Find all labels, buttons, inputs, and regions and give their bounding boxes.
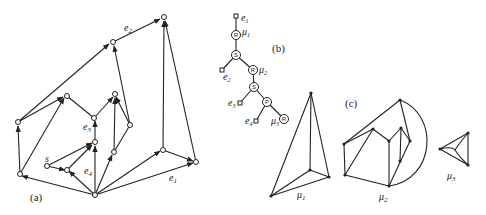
node-label-mu2: μ2	[258, 64, 267, 76]
label-mu1: μ1	[296, 189, 306, 202]
leaf-label-e1: e1	[241, 12, 248, 24]
leaf-e4	[254, 119, 258, 123]
svg-text:S: S	[252, 84, 256, 90]
caption-a: (a)	[30, 191, 43, 204]
svg-text:R: R	[282, 116, 287, 122]
label-mu3: μ3	[446, 170, 456, 183]
caption-b: (b)	[272, 42, 285, 55]
node-label-mu3: μ3	[270, 115, 279, 127]
diagram-canvas: e2 e3 e4 e1 s (a) R S R S P R e1 μ1 e2	[0, 0, 486, 215]
edge-label-e2: e2	[124, 22, 132, 35]
tree-node-s2: S	[250, 83, 259, 92]
tree-node-r2: R	[249, 66, 258, 75]
tree-node-s1: S	[232, 51, 241, 60]
svg-text:S: S	[234, 52, 238, 58]
source-label-s: s	[45, 153, 49, 164]
tree-b: R S R S P R e1 μ1 e2 μ2 e3 e4 μ3 (b)	[220, 12, 289, 127]
graph-a: e2 e3 e4 e1 s (a)	[16, 15, 199, 205]
leaf-label-e3: e3	[228, 97, 235, 109]
svg-text:R: R	[251, 67, 256, 73]
label-mu2: μ2	[378, 191, 388, 204]
tree-node-p: P	[263, 98, 272, 107]
leaf-e1	[234, 14, 238, 18]
edge-label-e4: e4	[84, 165, 92, 178]
svg-text:R: R	[234, 32, 239, 38]
edge-label-e1: e1	[169, 172, 177, 185]
skeleton-mu1	[271, 93, 329, 196]
tree-node-r3: R	[280, 115, 289, 124]
leaf-label-e4: e4	[245, 115, 252, 127]
skeleton-mu3	[440, 133, 468, 165]
tree-node-r1: R	[232, 31, 241, 40]
caption-c: (c)	[345, 97, 358, 110]
svg-text:P: P	[265, 99, 269, 105]
edge-label-e3: e3	[83, 121, 91, 134]
leaf-e3	[238, 101, 242, 105]
node-label-mu1: μ1	[241, 26, 250, 38]
skeleton-mu2	[344, 100, 427, 186]
leaf-label-e2: e2	[223, 71, 230, 83]
skeletons-c: μ1 μ2 μ3 (c)	[269, 91, 469, 204]
